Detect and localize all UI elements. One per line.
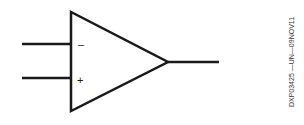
diagram-canvas: – + DXP03425 —UN—09NOV11 <box>0 0 304 125</box>
op-amp-diagram: – + <box>0 0 304 125</box>
plus-sign: + <box>77 74 83 86</box>
op-amp-triangle <box>71 12 168 111</box>
minus-sign: – <box>78 38 85 50</box>
figure-id-label: DXP03425 —UN—09NOV11 <box>288 17 295 107</box>
